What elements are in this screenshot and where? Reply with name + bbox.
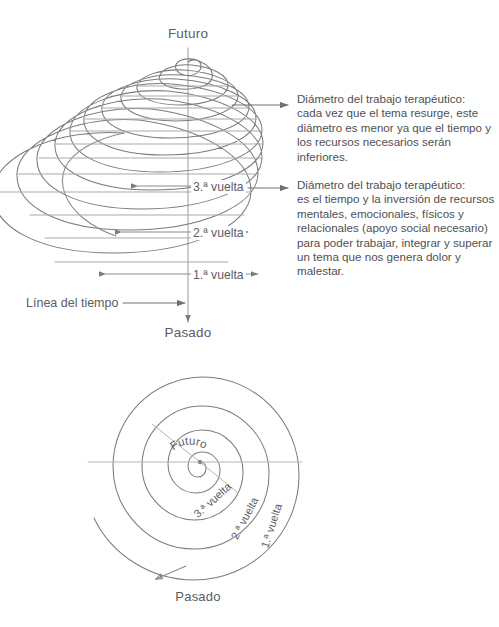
label-turn-3-top: 3.ª vuelta bbox=[191, 480, 234, 520]
diagram-canvas: Futuro Pasado Línea del tiempo 3.ª vuelt… bbox=[0, 0, 499, 627]
spiral-text-layer: Futuro 3.ª vuelta 2.ª vuelta 1.ª vuelta bbox=[0, 0, 499, 627]
svg-text:Futuro: Futuro bbox=[168, 434, 209, 452]
label-turn-1-top: 1.ª vuelta bbox=[258, 501, 284, 549]
label-turn-2-top: 2.ª vuelta bbox=[228, 494, 260, 541]
label-pasado-bottom: Pasado bbox=[118, 589, 278, 604]
label-futuro-center: Futuro bbox=[168, 434, 209, 452]
